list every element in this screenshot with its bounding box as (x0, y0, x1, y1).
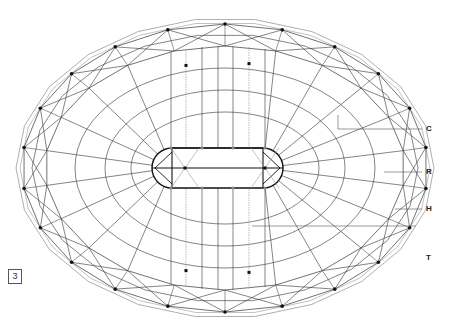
label-h: H (426, 205, 432, 213)
stadium-roof-plan-diagram (0, 0, 450, 335)
label-c: C (426, 125, 432, 133)
central-hub-ring (152, 146, 283, 189)
label-r: R (426, 168, 432, 176)
label-t: T (426, 254, 431, 262)
figure-number-badge: 3 (8, 269, 22, 284)
